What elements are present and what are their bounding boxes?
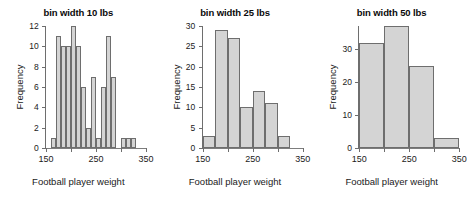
x-axis-tick (359, 148, 360, 152)
x-axis-tick (409, 148, 410, 152)
y-axis-tick-label: 10 (29, 41, 38, 51)
bar-series (46, 26, 146, 148)
y-axis-tick-label: 5 (191, 123, 196, 133)
x-axis-tick (146, 148, 147, 152)
y-axis-label: Frequency (171, 65, 182, 110)
x-axis-line (46, 148, 146, 149)
histogram-panel-0: bin width 10 lbs Frequency Football play… (0, 0, 157, 208)
plot-area (203, 26, 303, 148)
x-axis-tick (121, 148, 122, 152)
x-axis-tick (71, 148, 72, 152)
y-axis-label: Frequency (327, 65, 338, 110)
x-axis-tick (46, 148, 47, 152)
y-axis-tick-label: 15 (186, 82, 195, 92)
x-axis-tick (203, 148, 204, 152)
chart-title: bin width 10 lbs (0, 7, 157, 18)
x-axis-tick (303, 148, 304, 152)
y-axis-tick-label: 30 (186, 21, 195, 31)
histogram-bar (359, 43, 384, 149)
plot-area (359, 26, 459, 148)
histogram-bar (434, 138, 459, 148)
bar-series (359, 26, 459, 148)
y-axis-tick-label: 10 (186, 102, 195, 112)
histogram-bar (384, 26, 409, 148)
histogram-bar (131, 138, 136, 148)
x-axis-tick (384, 148, 385, 152)
x-axis-tick (278, 148, 279, 152)
histogram-panel-2: bin width 50 lbs Frequency Football play… (313, 0, 470, 208)
y-axis-label: Frequency (14, 65, 25, 110)
x-axis-tick (228, 148, 229, 152)
plot-area (46, 26, 146, 148)
x-axis-label: Football player weight (313, 176, 470, 187)
histogram-bar (409, 66, 434, 148)
x-axis-label: Football player weight (157, 176, 314, 187)
histogram-bar (203, 136, 216, 148)
chart-title: bin width 50 lbs (313, 7, 470, 18)
y-axis-tick-label: 6 (34, 82, 39, 92)
histogram-bar (240, 107, 253, 148)
bar-series (203, 26, 303, 148)
x-axis-label: Football player weight (0, 176, 157, 187)
histogram-bar (111, 77, 116, 148)
x-axis-tick-label: 150 (352, 154, 367, 164)
y-axis-tick-label: 4 (34, 102, 39, 112)
x-axis-tick-label: 150 (195, 154, 210, 164)
y-axis-tick-label: 0 (191, 143, 196, 153)
x-axis-tick (96, 148, 97, 152)
y-axis-tick-label: 20 (186, 62, 195, 72)
x-axis-line (359, 148, 459, 149)
histogram-bar (278, 136, 291, 148)
x-axis-tick (434, 148, 435, 152)
y-axis-tick-label: 12 (29, 21, 38, 31)
x-axis-tick-label: 150 (38, 154, 53, 164)
histogram-bar (265, 103, 278, 148)
x-axis-tick-label: 250 (402, 154, 417, 164)
histogram-panel-group: bin width 10 lbs Frequency Football play… (0, 0, 470, 208)
x-axis-tick-label: 250 (88, 154, 103, 164)
x-axis-tick-label: 350 (452, 154, 467, 164)
y-axis-tick-label: 10 (343, 110, 352, 120)
y-axis-tick-label: 0 (347, 143, 352, 153)
histogram-bar (215, 30, 228, 148)
x-axis-tick-label: 350 (295, 154, 310, 164)
chart-title: bin width 25 lbs (157, 7, 314, 18)
histogram-bar (253, 91, 266, 148)
x-axis-tick-label: 350 (138, 154, 153, 164)
x-axis-line (203, 148, 303, 149)
histogram-panel-1: bin width 25 lbs Frequency Football play… (157, 0, 314, 208)
histogram-bar (228, 38, 241, 148)
x-axis-tick-label: 250 (245, 154, 260, 164)
y-axis-tick-label: 30 (343, 44, 352, 54)
y-axis-tick-label: 8 (34, 62, 39, 72)
y-axis-tick-label: 25 (186, 41, 195, 51)
y-axis-tick-label: 20 (343, 77, 352, 87)
x-axis-tick (459, 148, 460, 152)
y-axis-tick-label: 2 (34, 123, 39, 133)
y-axis-tick-label: 0 (34, 143, 39, 153)
x-axis-tick (253, 148, 254, 152)
